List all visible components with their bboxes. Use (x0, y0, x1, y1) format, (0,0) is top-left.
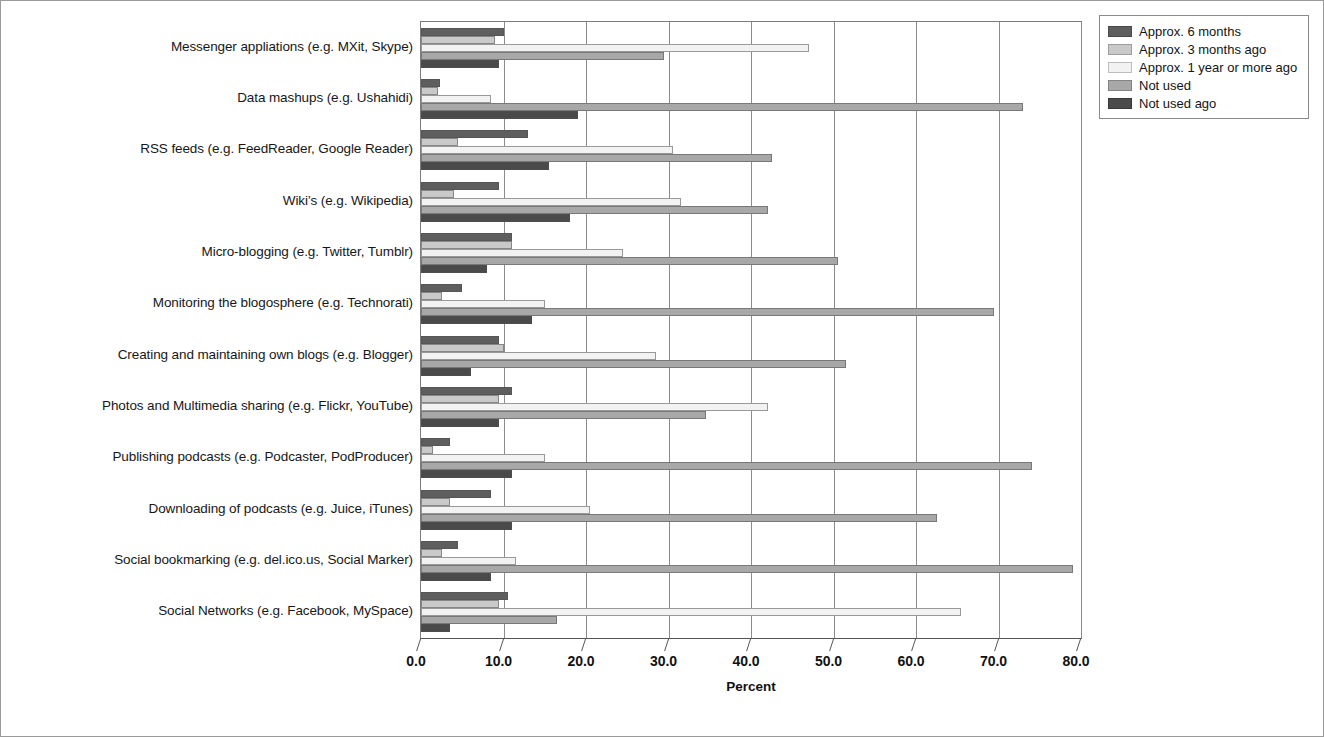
bar (421, 549, 442, 557)
bar (421, 36, 495, 44)
x-tick-label: 20.0 (551, 653, 611, 669)
x-tick-label: 60.0 (881, 653, 941, 669)
bar (421, 411, 706, 419)
plot-area (420, 21, 1082, 639)
x-tick-label: 0.0 (386, 653, 446, 669)
bar (421, 352, 656, 360)
category-label: Monitoring the blogosphere (e.g. Technor… (19, 295, 413, 310)
bar (421, 600, 499, 608)
bar (421, 470, 512, 478)
legend-swatch-icon (1108, 80, 1132, 91)
x-tick-label: 70.0 (964, 653, 1024, 669)
bar (421, 490, 491, 498)
x-tick-label: 40.0 (716, 653, 776, 669)
x-tick (416, 639, 421, 651)
bar (421, 403, 768, 411)
bar (421, 522, 512, 530)
bar (421, 360, 846, 368)
x-tick-label: 80.0 (1046, 653, 1106, 669)
bar (421, 162, 549, 170)
x-tick (746, 639, 751, 651)
bar (421, 95, 491, 103)
bar (421, 44, 809, 52)
legend-label: Not used ago (1139, 96, 1216, 111)
bar (421, 344, 504, 352)
bar (421, 214, 570, 222)
bar (421, 592, 508, 600)
bar (421, 336, 499, 344)
gridline (1081, 22, 1082, 638)
bar-group (421, 125, 1081, 176)
category-label: Social bookmarking (e.g. del.ico.us, Soc… (19, 552, 413, 567)
bar (421, 498, 450, 506)
bar (421, 300, 545, 308)
category-label: Wiki’s (e.g. Wikipedia) (19, 193, 413, 208)
legend-label: Approx. 3 months ago (1139, 42, 1266, 57)
bar (421, 308, 994, 316)
bar (421, 206, 768, 214)
bar (421, 446, 433, 454)
bar (421, 316, 532, 324)
category-label: Data mashups (e.g. Ushahidi) (19, 90, 413, 105)
bar (421, 233, 512, 241)
bar-group (421, 535, 1081, 586)
bar (421, 52, 664, 60)
bar-group (421, 484, 1081, 535)
category-label: RSS feeds (e.g. FeedReader, Google Reade… (19, 141, 413, 156)
bar (421, 130, 528, 138)
category-label: Micro-blogging (e.g. Twitter, Tumblr) (19, 244, 413, 259)
bar (421, 573, 491, 581)
x-tick (994, 639, 999, 651)
bar (421, 557, 516, 565)
legend-item[interactable]: Approx. 1 year or more ago (1108, 58, 1302, 76)
legend-swatch-icon (1108, 44, 1132, 55)
bar (421, 182, 499, 190)
bar (421, 387, 512, 395)
bar-group (421, 279, 1081, 330)
legend-item[interactable]: Approx. 3 months ago (1108, 40, 1302, 58)
legend-label: Approx. 1 year or more ago (1139, 60, 1297, 75)
bar (421, 506, 590, 514)
bar (421, 154, 772, 162)
bar (421, 514, 937, 522)
legend-item[interactable]: Approx. 6 months (1108, 22, 1302, 40)
bar-group (421, 330, 1081, 381)
x-tick-label: 30.0 (634, 653, 694, 669)
bar (421, 616, 557, 624)
legend-item[interactable]: Not used (1108, 76, 1302, 94)
bar (421, 438, 450, 446)
x-tick-label: 10.0 (469, 653, 529, 669)
bar-group (421, 227, 1081, 278)
bar (421, 624, 450, 632)
bar (421, 395, 499, 403)
bar-group (421, 73, 1081, 124)
category-axis-labels: Messenger appliations (e.g. MXit, Skype)… (19, 21, 417, 639)
x-tick (581, 639, 586, 651)
chart-legend: Approx. 6 monthsApprox. 3 months agoAppr… (1099, 15, 1309, 119)
chart-figure: Messenger appliations (e.g. MXit, Skype)… (0, 0, 1324, 737)
x-tick (1076, 639, 1081, 651)
bar (421, 292, 442, 300)
legend-label: Not used (1139, 78, 1191, 93)
bar (421, 198, 681, 206)
x-tick (911, 639, 916, 651)
x-tick (499, 639, 504, 651)
bar (421, 608, 961, 616)
bar (421, 146, 673, 154)
bar (421, 284, 462, 292)
legend-item[interactable]: Not used ago (1108, 94, 1302, 112)
bar-group (421, 22, 1081, 73)
bar (421, 87, 438, 95)
legend-swatch-icon (1108, 26, 1132, 37)
legend-swatch-icon (1108, 62, 1132, 73)
bar (421, 565, 1073, 573)
bar (421, 79, 440, 87)
bar (421, 541, 458, 549)
bar (421, 138, 458, 146)
x-tick (664, 639, 669, 651)
category-label: Creating and maintaining own blogs (e.g.… (19, 347, 413, 362)
bar-group (421, 176, 1081, 227)
x-tick (829, 639, 834, 651)
bar-group (421, 381, 1081, 432)
legend-swatch-icon (1108, 98, 1132, 109)
